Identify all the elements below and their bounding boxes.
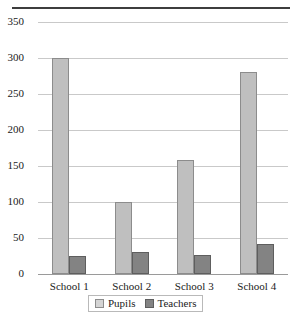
- y-tick-label: 200: [0, 124, 24, 135]
- bar-teachers-school-4: [257, 244, 274, 274]
- legend-label-pupils: Pupils: [108, 298, 136, 309]
- bar-teachers-school-2: [132, 252, 149, 274]
- bar-teachers-school-1: [69, 256, 86, 274]
- bar-pupils-school-1: [52, 58, 69, 274]
- x-tick-label: School 1: [38, 280, 100, 292]
- bar-group: [177, 22, 211, 274]
- y-tick-label: 300: [0, 52, 24, 63]
- bar-group: [240, 22, 274, 274]
- y-tick-label: 50: [0, 232, 24, 243]
- bar-pupils-school-4: [240, 72, 257, 274]
- y-tick-label: 100: [0, 196, 24, 207]
- legend-swatch-teachers-icon: [145, 299, 154, 308]
- bar-teachers-school-3: [194, 255, 211, 274]
- chart-legend: Pupils Teachers: [88, 295, 203, 312]
- legend-label-teachers: Teachers: [158, 298, 197, 309]
- legend-entry-teachers: Teachers: [145, 298, 197, 309]
- bar-chart-figure: 050100150200250300350 School 1School 2Sc…: [0, 0, 298, 319]
- x-tick-label: School 4: [226, 280, 288, 292]
- legend-entry-pupils: Pupils: [95, 298, 136, 309]
- bar-pupils-school-3: [177, 160, 194, 274]
- bar-pupils-school-2: [115, 202, 132, 274]
- top-divider-rule: [12, 7, 290, 9]
- bar-groups: [38, 22, 288, 274]
- y-tick-label: 250: [0, 88, 24, 99]
- y-tick-label: 350: [0, 16, 24, 27]
- bar-group: [115, 22, 149, 274]
- plot-area: 050100150200250300350 School 1School 2Sc…: [38, 22, 288, 274]
- x-tick-label: School 3: [163, 280, 225, 292]
- y-tick-label: 0: [0, 268, 24, 279]
- y-tick-label: 150: [0, 160, 24, 171]
- bar-group: [52, 22, 86, 274]
- gridline: [38, 274, 288, 275]
- legend-swatch-pupils-icon: [95, 299, 104, 308]
- x-tick-label: School 2: [101, 280, 163, 292]
